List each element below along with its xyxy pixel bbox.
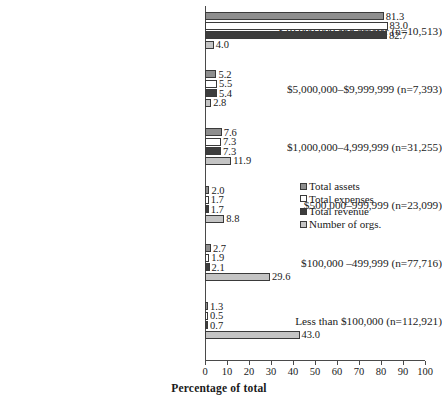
bar-orgs-5 bbox=[205, 331, 300, 339]
bar-assets-1 bbox=[205, 70, 216, 78]
bar-revenue-2 bbox=[205, 147, 221, 155]
bar-revenue-3 bbox=[205, 205, 209, 213]
bar-revenue-0 bbox=[205, 31, 387, 39]
bar-value-label: 11.9 bbox=[233, 155, 251, 166]
bar-orgs-1 bbox=[205, 99, 211, 107]
bar-revenue-4 bbox=[205, 263, 210, 271]
bar-expenses-5 bbox=[205, 312, 208, 320]
bar-chart: $10,000,000 and greater (n=10,513)$5,000… bbox=[0, 0, 442, 412]
bar-expenses-1 bbox=[205, 80, 217, 88]
x-tick bbox=[425, 361, 426, 365]
bar-assets-2 bbox=[205, 128, 222, 136]
legend-label: Total expenses bbox=[309, 193, 374, 206]
x-tick bbox=[293, 361, 294, 365]
bar-value-label: 43.0 bbox=[302, 329, 320, 340]
bar-assets-4 bbox=[205, 244, 211, 252]
legend-item-orgs: Number of orgs. bbox=[300, 218, 381, 231]
bar-orgs-3 bbox=[205, 215, 224, 223]
x-tick bbox=[381, 361, 382, 365]
x-tick bbox=[315, 361, 316, 365]
bar-expenses-3 bbox=[205, 196, 209, 204]
bar-orgs-4 bbox=[205, 273, 270, 281]
bar-expenses-0 bbox=[205, 22, 388, 30]
legend-label: Total revenue bbox=[309, 205, 369, 218]
bar-assets-0 bbox=[205, 12, 384, 20]
bar-value-label: 82.7 bbox=[389, 30, 407, 41]
bar-revenue-5 bbox=[205, 321, 208, 329]
bar-value-label: 1.7 bbox=[211, 204, 224, 215]
bar-revenue-1 bbox=[205, 89, 217, 97]
bar-value-label: 29.6 bbox=[272, 271, 290, 282]
legend-label: Total assets bbox=[309, 180, 360, 193]
legend-swatch-expenses-icon bbox=[300, 195, 307, 202]
legend-swatch-assets-icon bbox=[300, 183, 307, 190]
bar-value-label: 2.8 bbox=[213, 97, 226, 108]
x-tick bbox=[205, 361, 206, 365]
bar-expenses-2 bbox=[205, 138, 221, 146]
x-axis-title: Percentage of total bbox=[0, 382, 440, 394]
bar-orgs-2 bbox=[205, 157, 231, 165]
legend-item-revenue: Total revenue bbox=[300, 205, 381, 218]
x-tick bbox=[227, 361, 228, 365]
bar-assets-5 bbox=[205, 302, 208, 310]
x-tick bbox=[403, 361, 404, 365]
legend-swatch-revenue-icon bbox=[300, 208, 307, 215]
x-tick bbox=[337, 361, 338, 365]
bar-orgs-0 bbox=[205, 41, 214, 49]
bar-assets-3 bbox=[205, 186, 209, 194]
legend: Total assetsTotal expensesTotal revenueN… bbox=[300, 180, 381, 230]
legend-item-assets: Total assets bbox=[300, 180, 381, 193]
legend-label: Number of orgs. bbox=[309, 218, 381, 231]
bar-value-label: 8.8 bbox=[226, 213, 239, 224]
legend-item-expenses: Total expenses bbox=[300, 193, 381, 206]
legend-swatch-orgs-icon bbox=[300, 221, 307, 228]
x-tick bbox=[249, 361, 250, 365]
x-tick bbox=[359, 361, 360, 365]
x-tick-label: 100 bbox=[410, 366, 440, 378]
bar-value-label: 4.0 bbox=[216, 39, 229, 50]
bar-value-label: 2.1 bbox=[212, 262, 225, 273]
x-tick bbox=[271, 361, 272, 365]
bar-expenses-4 bbox=[205, 254, 209, 262]
bar-value-label: 0.7 bbox=[210, 320, 223, 331]
